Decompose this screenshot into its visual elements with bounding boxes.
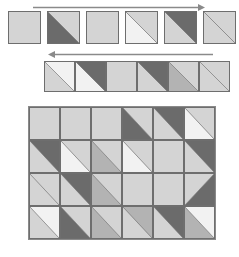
grid-cell-r1-c3 <box>91 107 122 140</box>
grid-cell-r1-c1 <box>29 107 60 140</box>
grid-cell-r3-c3 <box>91 173 122 206</box>
tile <box>106 61 137 92</box>
tile <box>164 11 197 44</box>
grid-cell-r4-c1 <box>29 206 60 239</box>
grid-cell-r2-c5 <box>153 140 184 173</box>
grid-cell-r3-c6 <box>184 173 215 206</box>
tile <box>199 61 230 92</box>
grid-cell-r3-c2 <box>60 173 91 206</box>
grid-cell-r1-c4 <box>122 107 153 140</box>
tile-grid <box>28 106 216 240</box>
grid-cell-r4-c6 <box>184 206 215 239</box>
second-arrow-left-icon <box>48 50 213 59</box>
grid-cell-r4-c2 <box>60 206 91 239</box>
grid-cell-r4-c3 <box>91 206 122 239</box>
grid-cell-r2-c6 <box>184 140 215 173</box>
tile-strip-top <box>8 11 236 44</box>
tile-strip-second <box>44 61 230 92</box>
tile <box>47 11 80 44</box>
tile <box>8 11 41 44</box>
grid-cell-r3-c5 <box>153 173 184 206</box>
grid-cell-r1-c2 <box>60 107 91 140</box>
grid-cell-r2-c2 <box>60 140 91 173</box>
grid-cell-r1-c5 <box>153 107 184 140</box>
grid-cell-r3-c1 <box>29 173 60 206</box>
tile <box>75 61 106 92</box>
tile <box>44 61 75 92</box>
tile <box>86 11 119 44</box>
tile <box>125 11 158 44</box>
grid-cell-r3-c4 <box>122 173 153 206</box>
grid-cell-r2-c1 <box>29 140 60 173</box>
grid-cell-r4-c5 <box>153 206 184 239</box>
grid-cell-r2-c4 <box>122 140 153 173</box>
grid-cell-r4-c4 <box>122 206 153 239</box>
figure-canvas <box>0 0 239 257</box>
grid-cell-r1-c6 <box>184 107 215 140</box>
tile <box>203 11 236 44</box>
grid-cell-r2-c3 <box>91 140 122 173</box>
tile <box>168 61 199 92</box>
tile <box>137 61 168 92</box>
